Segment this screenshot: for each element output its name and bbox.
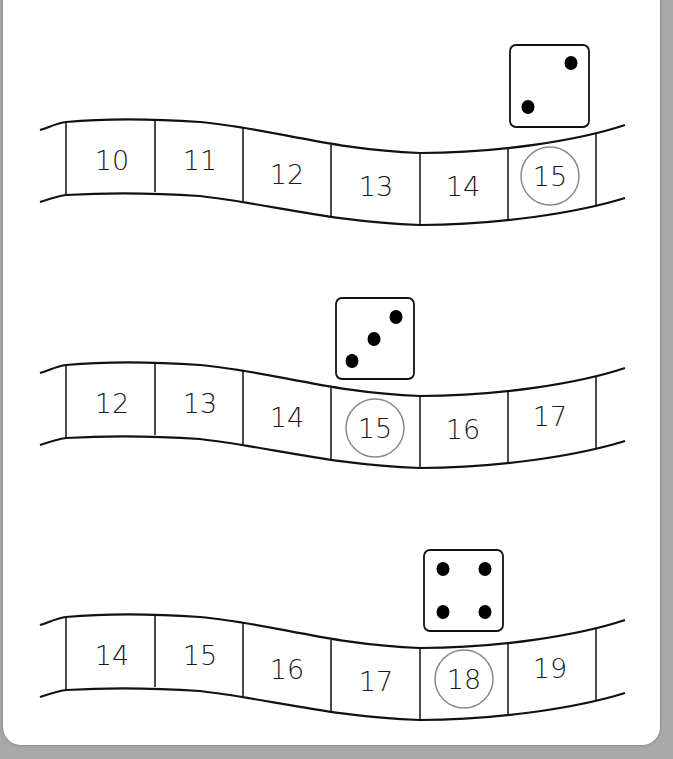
square-2-6[interactable]: 17: [533, 401, 567, 432]
square-2-4[interactable]: 15: [358, 413, 392, 444]
square-1-4[interactable]: 13: [359, 171, 393, 202]
track-row-1: 10 11 12 13 14 15: [40, 45, 625, 225]
square-3-6[interactable]: 19: [533, 653, 567, 684]
track-row-2: 12 13 14 15 16 17: [40, 298, 625, 468]
square-3-3[interactable]: 16: [270, 654, 304, 685]
number-track-worksheet: 10 11 12 13 14 15 12 13 14 15 16 17 14: [0, 0, 673, 759]
die-four-icon: [424, 550, 503, 631]
square-1-6[interactable]: 15: [533, 161, 567, 192]
square-3-2[interactable]: 15: [183, 640, 217, 671]
square-2-3[interactable]: 14: [270, 402, 304, 433]
square-1-5[interactable]: 14: [446, 171, 480, 202]
square-2-1[interactable]: 12: [95, 388, 129, 419]
square-3-5[interactable]: 18: [447, 664, 481, 695]
square-1-1[interactable]: 10: [95, 145, 129, 176]
square-2-2[interactable]: 13: [183, 388, 217, 419]
square-1-2[interactable]: 11: [183, 145, 217, 176]
track-row-3: 14 15 16 17 18 19: [40, 550, 625, 720]
square-2-5[interactable]: 16: [446, 414, 480, 445]
die-two-icon: [510, 45, 589, 127]
die-three-icon: [336, 298, 414, 379]
square-3-4[interactable]: 17: [359, 666, 393, 697]
square-1-3[interactable]: 12: [270, 159, 304, 190]
square-3-1[interactable]: 14: [95, 640, 129, 671]
